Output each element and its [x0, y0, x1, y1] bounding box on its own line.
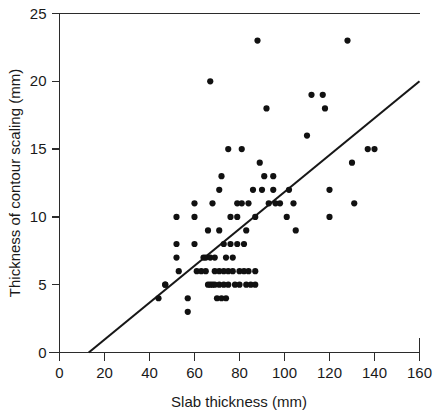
data-point: [185, 295, 191, 301]
data-point: [243, 227, 249, 233]
data-point: [365, 146, 371, 152]
data-point: [252, 268, 258, 274]
scatter-points: [155, 38, 377, 315]
x-tick-label: 160: [407, 364, 432, 381]
data-point: [176, 268, 182, 274]
x-tick-label: 140: [362, 364, 387, 381]
x-tick-label: 0: [55, 364, 63, 381]
data-point: [322, 105, 328, 111]
data-point: [230, 254, 236, 260]
data-point: [245, 268, 251, 274]
data-point: [203, 268, 209, 274]
data-point: [173, 254, 179, 260]
y-tick-label: 0: [38, 344, 46, 361]
data-point: [349, 160, 355, 166]
data-point: [191, 241, 197, 247]
x-tick-label: 40: [141, 364, 158, 381]
data-point: [320, 92, 326, 98]
data-point: [259, 187, 265, 193]
data-point: [212, 254, 218, 260]
data-point: [263, 105, 269, 111]
x-axis-tick-labels: 020406080100120140160: [55, 364, 432, 381]
data-point: [221, 241, 227, 247]
data-point: [245, 200, 251, 206]
data-point: [239, 200, 245, 206]
data-point: [227, 241, 233, 247]
data-point: [216, 187, 222, 193]
data-point: [209, 200, 215, 206]
data-point: [290, 200, 296, 206]
data-point: [326, 214, 332, 220]
data-point: [234, 241, 240, 247]
data-point: [257, 160, 263, 166]
data-point: [266, 200, 272, 206]
y-tick-label: 20: [30, 72, 47, 89]
y-tick-label: 5: [38, 276, 46, 293]
data-point: [351, 200, 357, 206]
y-axis-title: Thickness of contour scaling (mm): [6, 69, 23, 297]
data-point: [252, 282, 258, 288]
data-point: [227, 214, 233, 220]
plot-canvas: 020406080100120140160 0510152025 Slab th…: [0, 0, 439, 416]
data-point: [173, 214, 179, 220]
data-point: [261, 173, 267, 179]
data-point: [304, 132, 310, 138]
data-point: [223, 254, 229, 260]
y-tick-label: 15: [30, 140, 47, 157]
data-point: [293, 227, 299, 233]
x-tick-label: 120: [317, 364, 342, 381]
data-point: [216, 227, 222, 233]
x-tick-label: 20: [96, 364, 113, 381]
data-point: [277, 200, 283, 206]
data-point: [223, 295, 229, 301]
data-point: [252, 214, 258, 220]
data-point: [185, 309, 191, 315]
data-point: [225, 282, 231, 288]
data-point: [218, 173, 224, 179]
data-point: [326, 187, 332, 193]
x-tick-label: 100: [272, 364, 297, 381]
data-point: [230, 268, 236, 274]
data-point: [250, 187, 256, 193]
y-axis-ticks: [52, 14, 60, 353]
data-point: [234, 214, 240, 220]
data-point: [308, 92, 314, 98]
data-point: [207, 78, 213, 84]
y-axis-tick-labels: 0510152025: [30, 5, 47, 361]
x-tick-label: 80: [231, 364, 248, 381]
data-point: [241, 241, 247, 247]
y-tick-label: 25: [30, 5, 47, 22]
data-point: [205, 227, 211, 233]
data-point: [371, 146, 377, 152]
data-point: [239, 146, 245, 152]
data-point: [286, 187, 292, 193]
x-axis-title: Slab thickness (mm): [171, 393, 307, 410]
data-point: [191, 214, 197, 220]
data-point: [225, 146, 231, 152]
x-axis-ticks: [60, 353, 420, 361]
data-point: [191, 200, 197, 206]
scatter-plot-figure: 020406080100120140160 0510152025 Slab th…: [0, 0, 439, 416]
data-point: [236, 282, 242, 288]
data-point: [270, 173, 276, 179]
x-tick-label: 60: [186, 364, 203, 381]
data-point: [162, 282, 168, 288]
data-point: [270, 187, 276, 193]
data-point: [254, 38, 260, 44]
plot-frame: [49, 14, 420, 353]
data-point: [284, 214, 290, 220]
y-tick-label: 10: [30, 208, 47, 225]
data-point: [155, 295, 161, 301]
data-point: [173, 241, 179, 247]
data-point: [344, 38, 350, 44]
